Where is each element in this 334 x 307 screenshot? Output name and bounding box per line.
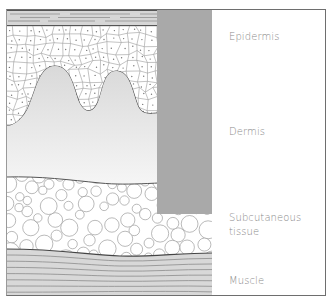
label-epidermis: Epidermis: [229, 30, 280, 43]
shaded-bar: [157, 10, 212, 214]
label-muscle: Muscle: [229, 274, 264, 287]
label-subcutaneous-tissue: tissue: [229, 225, 259, 238]
label-dermis: Dermis: [229, 125, 265, 138]
skin-layers-diagram: [0, 0, 334, 307]
label-subcutaneous: Subcutaneous: [229, 211, 301, 224]
